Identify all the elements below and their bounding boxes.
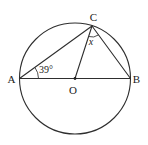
chord-ac [20,26,93,79]
center-point-o [74,77,77,80]
angle-value-at-a: 39° [39,64,53,75]
label-point-o: O [69,84,77,96]
segment-co [75,26,92,79]
label-point-b: B [133,73,140,85]
circle-geometry-figure: A B C O 39° x [0,0,148,145]
angle-arc-a [35,67,39,78]
angle-value-at-c: x [88,36,94,47]
label-point-a: A [8,73,16,85]
geometry-figure-container: A B C O 39° x [0,0,148,145]
label-point-c: C [90,11,97,23]
chord-cb [92,26,131,79]
